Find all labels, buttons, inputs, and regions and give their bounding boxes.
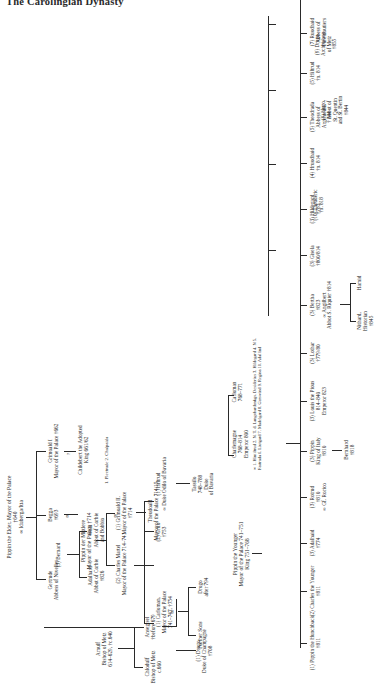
- connector: [286, 443, 300, 444]
- node-adalhaid: (3) Adalhaid †774: [310, 518, 322, 568]
- connector: [176, 483, 190, 484]
- node-pippin-king-of-italy: (3) Pippin King of Italy †810: [310, 428, 327, 474]
- node-charlemagne: Charlemagne 768–814 Emperor 800: [232, 418, 249, 470]
- connector: [300, 401, 307, 402]
- connector: [178, 611, 188, 612]
- connector: [252, 553, 262, 554]
- node-arnulf: Arnulf Bishop of Metz 614–629, †c.640: [96, 620, 113, 678]
- connector: [300, 543, 307, 544]
- node-chlodulf: Chlodulf Bishop of Metz c.660: [145, 644, 162, 684]
- connector: [79, 577, 87, 578]
- connector: [228, 455, 234, 456]
- node-carloman-768: Carloman 768–771: [232, 370, 244, 414]
- connector: [44, 627, 144, 628]
- connector: [269, 250, 276, 251]
- connector: [144, 565, 154, 566]
- connector: [300, 591, 307, 592]
- node-theuderic: (10) Theuderic †n. 818: [313, 176, 325, 234]
- connector: [269, 164, 276, 165]
- connector: [188, 635, 196, 636]
- connector: [106, 514, 107, 566]
- connector: [67, 554, 79, 555]
- connector: [134, 565, 144, 566]
- connector: [79, 531, 87, 532]
- connector: [36, 579, 46, 580]
- connector: [134, 667, 143, 668]
- node-hiltrud: (1) Hiltrud ∞ Duke Odilo of Bavaria: [156, 442, 168, 526]
- connector: [144, 623, 154, 624]
- node-louis-the-pious: (3) Louis the Pious 814–840 Emperor 823: [310, 374, 327, 428]
- uncertain-mark: ?: [66, 453, 71, 455]
- node-pippin-the-younger: Pippin the Younger Mayor of the Palace 7…: [232, 490, 250, 618]
- node-tassilo: Tassilo 748–788 Duke of Bavaria: [192, 462, 215, 506]
- connector: [269, 24, 276, 25]
- connector: [79, 532, 80, 578]
- node-bernhard: Bernhard †818: [344, 428, 356, 472]
- connector: [36, 515, 46, 516]
- children-bus-right: [268, 16, 269, 316]
- node-carloman-mayor: (1) Carloman, Mayor of the Palace 741–74…: [156, 576, 173, 648]
- connector: [144, 531, 154, 532]
- node-charles-the-younger: (2) Charles the Younger †811: [310, 560, 322, 622]
- connector: [228, 396, 229, 456]
- node-bernard: (3) Bernard: [56, 530, 62, 580]
- connector: [188, 588, 189, 636]
- connector: [144, 501, 154, 502]
- connector: [269, 90, 276, 91]
- connector: [36, 452, 37, 580]
- connector: [134, 628, 135, 668]
- node-adaltrude: (8) Adaltrude: [315, 6, 321, 10]
- connector: [300, 451, 307, 452]
- connector: [144, 502, 145, 624]
- node-charlemagne-wives: ∞ 1. Himiltrud 2. N. T. d. Langobardenkg…: [252, 338, 263, 470]
- connector: [332, 450, 342, 451]
- node-charles-martel: (2) Charles Martel Mayor of the Palace 7…: [116, 520, 128, 608]
- node-further-sons: Further Sons: [198, 612, 204, 658]
- connector: [300, 497, 307, 498]
- node-wala: Wala Abbot of Corbie and Bobbio: [88, 504, 105, 556]
- node-childebert-the-adopted: Childebert the Adopted King 661/62: [78, 414, 90, 486]
- connector: [36, 451, 46, 452]
- node-pippin-wives: 1. Plectrude 2. Chalpaida: [104, 434, 110, 484]
- connector: [300, 353, 307, 354]
- connector: [176, 599, 177, 627]
- node-adalhard: Adalhard Abbot of Corbie †826: [88, 550, 105, 602]
- node-drogo-metz: (9) Drogo, Archbishop of Metz †855: [315, 12, 338, 76]
- node-drogo-after-794: Drogo after 794: [198, 564, 210, 610]
- connector: [188, 587, 196, 588]
- connector: [26, 517, 36, 518]
- node-pippin-the-elder: Pippin the Elder, Mayor of the Palace †6…: [6, 442, 24, 592]
- node-rotrud: (3) Rotrud †810 ∞ Gf. Rorico: [310, 474, 327, 520]
- connector: [106, 565, 115, 566]
- connector: [228, 395, 234, 396]
- node-hugo: (9) Hugo, Abbot of St. Quentin and St. B…: [321, 72, 350, 148]
- connector: [176, 650, 196, 651]
- connector: [64, 514, 78, 515]
- right-column-group: (8) Adaltrude (9) Drogo, Archbishop of M…: [255, 6, 365, 346]
- node-grimoald-i: Grimoald I Mayor of the Palace †662: [48, 414, 60, 488]
- connector: [118, 648, 134, 649]
- connector: [300, 643, 307, 644]
- marriage-symbol-cm: ∞: [112, 514, 118, 518]
